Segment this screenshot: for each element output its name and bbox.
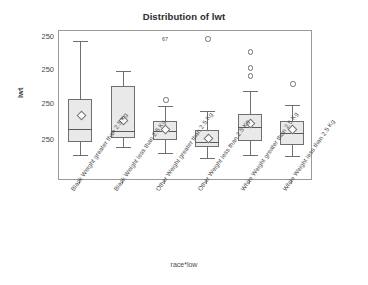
whisker-upper bbox=[123, 71, 124, 86]
outlier-point bbox=[248, 73, 253, 78]
whisker-cap-upper bbox=[116, 71, 131, 72]
whisker-lower bbox=[250, 141, 251, 155]
whisker-lower bbox=[123, 138, 124, 147]
whisker-upper bbox=[250, 91, 251, 114]
whisker-lower bbox=[165, 140, 166, 153]
chart-title: Distribution of lwt bbox=[0, 11, 368, 22]
whisker-lower bbox=[292, 145, 293, 156]
y-tick-text: 250 bbox=[28, 135, 54, 144]
whisker-cap-lower bbox=[73, 155, 88, 156]
y-tick-label: 250 bbox=[26, 32, 54, 42]
y-tick-text: 250 bbox=[28, 65, 54, 74]
whisker-cap-upper bbox=[243, 91, 258, 92]
whisker-cap-upper bbox=[285, 105, 300, 106]
boxplot-figure: Distribution of lwt lwt 250250250250 67 … bbox=[0, 0, 368, 285]
y-tick-label: 250 bbox=[26, 99, 54, 109]
y-tick-text: 250 bbox=[28, 32, 54, 41]
whisker-lower bbox=[207, 147, 208, 158]
whisker-upper bbox=[165, 106, 166, 121]
whisker-cap-lower bbox=[285, 156, 300, 157]
whisker-cap-lower bbox=[116, 147, 131, 148]
whisker-cap-lower bbox=[243, 155, 258, 156]
whisker-cap-lower bbox=[200, 158, 215, 159]
x-axis-label: race*low bbox=[0, 261, 368, 268]
outlier-point bbox=[290, 81, 295, 86]
outlier-label: 67 bbox=[162, 36, 168, 42]
outlier-point bbox=[163, 97, 168, 102]
whisker-cap-upper bbox=[158, 106, 173, 107]
y-tick-label: 250 bbox=[26, 65, 54, 75]
box-iqr bbox=[68, 99, 92, 142]
outlier-point bbox=[248, 49, 253, 54]
whisker-lower bbox=[80, 142, 81, 155]
whisker-cap-lower bbox=[158, 153, 173, 154]
y-tick-text: 250 bbox=[28, 99, 54, 108]
whisker-cap-upper bbox=[73, 41, 88, 42]
median-line bbox=[68, 129, 92, 130]
whisker-upper bbox=[80, 41, 81, 99]
outlier-point bbox=[205, 36, 210, 41]
y-tick-label: 250 bbox=[26, 135, 54, 145]
outlier-point bbox=[248, 65, 253, 70]
y-axis-label: lwt bbox=[16, 88, 25, 98]
